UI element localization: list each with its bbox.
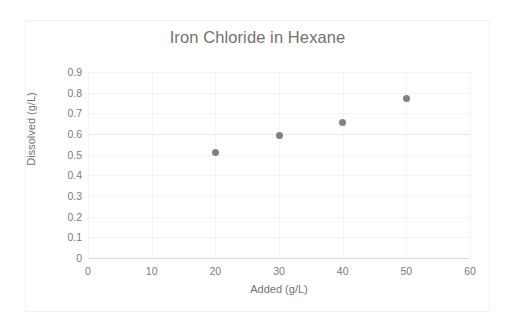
y-axis-tick-labels: 00.10.20.30.40.50.60.70.80.9 xyxy=(38,0,82,331)
x-axis-tick-label: 0 xyxy=(68,266,108,277)
x-axis-tick-label: 50 xyxy=(386,266,426,277)
x-axis-tick-label: 30 xyxy=(259,266,299,277)
gridline-vertical xyxy=(470,72,471,258)
y-axis-tick-label: 0.6 xyxy=(42,129,82,139)
x-axis-title: Added (g/L) xyxy=(88,283,470,295)
x-axis-tick-label: 60 xyxy=(450,266,490,277)
y-axis-title: Dissolved (g/L) xyxy=(25,69,37,189)
y-axis-tick-label: 0.4 xyxy=(42,170,82,180)
y-axis-tick-label: 0.8 xyxy=(42,88,82,98)
data-point[interactable] xyxy=(403,95,410,102)
x-axis-tick-label: 40 xyxy=(323,266,363,277)
x-axis-line xyxy=(88,258,470,259)
y-axis-tick-label: 0.9 xyxy=(42,67,82,77)
x-axis-tick-label: 10 xyxy=(132,266,172,277)
y-axis-tick-label: 0 xyxy=(42,253,82,263)
gridline-vertical xyxy=(343,72,344,258)
data-point[interactable] xyxy=(276,132,283,139)
y-axis-tick-label: 0.2 xyxy=(42,212,82,222)
gridline-vertical xyxy=(279,72,280,258)
data-point[interactable] xyxy=(212,149,219,156)
gridline-vertical xyxy=(152,72,153,258)
y-axis-tick-label: 0.5 xyxy=(42,150,82,160)
gridline-vertical xyxy=(88,72,89,258)
x-axis-tick-label: 20 xyxy=(195,266,235,277)
y-axis-tick-label: 0.3 xyxy=(42,191,82,201)
data-point[interactable] xyxy=(339,119,346,126)
chart-title: Iron Chloride in Hexane xyxy=(25,28,490,47)
gridline-vertical xyxy=(215,72,216,258)
plot-area xyxy=(88,72,470,258)
y-axis-tick-label: 0.7 xyxy=(42,108,82,118)
y-axis-tick-label: 0.1 xyxy=(42,232,82,242)
